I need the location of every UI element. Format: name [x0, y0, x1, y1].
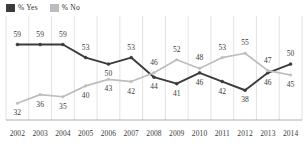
x-axis-tick: 2006	[101, 129, 116, 139]
data-label: 53	[218, 44, 226, 52]
x-axis-tick: 2009	[169, 129, 184, 139]
legend-swatch-no	[50, 4, 59, 12]
legend-item-yes: % Yes	[6, 4, 38, 12]
data-label: 41	[173, 90, 181, 98]
x-axis-tick: 2008	[146, 129, 161, 139]
data-label: 53	[127, 44, 135, 52]
data-label: 53	[82, 44, 90, 52]
x-axis-tick: 2002	[10, 129, 25, 139]
data-label: 52	[173, 46, 181, 54]
data-label: 36	[36, 101, 44, 109]
data-label: 43	[105, 85, 113, 93]
legend-swatch-yes	[6, 4, 15, 12]
data-label: 42	[127, 88, 135, 96]
data-label: 59	[36, 31, 44, 39]
x-axis-tick: 2005	[78, 129, 93, 139]
plot-svg	[0, 14, 308, 126]
data-label: 45	[287, 81, 295, 89]
data-label: 50	[287, 50, 295, 58]
data-label: 46	[150, 59, 158, 67]
data-label: 46	[196, 79, 204, 87]
data-label: 46	[264, 79, 272, 87]
data-label: 59	[14, 31, 22, 39]
data-label: 44	[150, 83, 158, 91]
data-label: 48	[196, 54, 204, 62]
x-axis: 2002200320042005200620072008200920102011…	[0, 128, 308, 142]
line-chart: % Yes % No 59595953505344414642384650323…	[0, 0, 308, 144]
data-label: 47	[264, 57, 272, 65]
data-label: 38	[241, 96, 249, 104]
x-axis-tick: 2013	[260, 129, 275, 139]
data-label: 59	[59, 31, 67, 39]
legend-item-no: % No	[50, 4, 80, 12]
x-axis-tick: 2004	[55, 129, 70, 139]
data-label: 35	[59, 103, 67, 111]
legend-label-yes: % Yes	[18, 4, 38, 12]
data-label: 32	[14, 109, 22, 117]
data-label: 40	[82, 92, 90, 100]
data-label: 42	[218, 88, 226, 96]
legend-label-no: % No	[62, 4, 80, 12]
chart-legend: % Yes % No	[6, 2, 80, 14]
x-axis-tick: 2014	[283, 129, 298, 139]
x-axis-tick: 2011	[215, 129, 230, 139]
data-label: 55	[241, 39, 249, 47]
data-label: 50	[105, 70, 113, 78]
plot-area: 5959595350534441464238465032363540434246…	[0, 14, 308, 126]
x-axis-tick: 2007	[124, 129, 139, 139]
x-axis-tick: 2010	[192, 129, 207, 139]
x-axis-tick: 2012	[237, 129, 252, 139]
x-axis-tick: 2003	[32, 129, 47, 139]
